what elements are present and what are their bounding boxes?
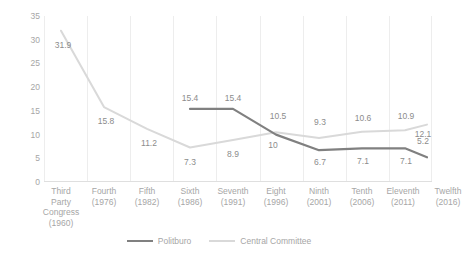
x-axis-label: Seventh (1991) bbox=[209, 186, 257, 207]
data-label-politburo: 7.1 bbox=[400, 157, 412, 166]
x-axis-label-line: (1996) bbox=[264, 197, 289, 207]
x-axis-label: Fifth (1982) bbox=[123, 186, 171, 207]
y-axis-tick: 25 bbox=[18, 59, 40, 68]
x-axis-label-line: (2001) bbox=[307, 197, 332, 207]
data-label-cc: 10.5 bbox=[270, 112, 287, 121]
x-axis-label-line: Third bbox=[51, 186, 70, 196]
legend-swatch-politburo bbox=[127, 240, 153, 242]
legend-label-politburo: Politburo bbox=[158, 236, 192, 246]
data-label-cc: 9.3 bbox=[314, 118, 326, 127]
y-axis-tick: 30 bbox=[18, 35, 40, 44]
data-label-cc: 11.2 bbox=[141, 139, 157, 148]
x-axis-label-line: (1960) bbox=[49, 218, 74, 228]
x-axis-label-line: Congress bbox=[43, 207, 79, 217]
x-axis-label-line: Tenth bbox=[352, 186, 373, 196]
data-label-politburo: 6.7 bbox=[314, 158, 326, 167]
y-axis-tick: 35 bbox=[18, 12, 40, 21]
x-axis-label: Sixth (1986) bbox=[166, 186, 214, 207]
x-axis-label: Eleventh (2011) bbox=[377, 186, 429, 207]
x-axis-label-line: Ninth bbox=[309, 186, 329, 196]
x-axis-label: Fourth (1976) bbox=[80, 186, 128, 207]
data-label-cc: 10.9 bbox=[398, 112, 415, 121]
x-axis-label-line: (1991) bbox=[221, 197, 246, 207]
x-axis-labels: Third Party Congress (1960) Fourth (1976… bbox=[44, 186, 432, 242]
data-label-cc: 8.9 bbox=[227, 150, 239, 159]
series-line-politburo bbox=[190, 109, 427, 157]
x-axis-label-line: Eleventh bbox=[386, 186, 419, 196]
x-axis-label: Twelfth (2016) bbox=[423, 186, 466, 207]
y-axis: 35 30 25 20 15 10 5 0 bbox=[16, 16, 40, 182]
data-label-cc: 15.8 bbox=[98, 117, 115, 126]
legend-entry-central-committee[interactable]: Central Committee bbox=[209, 236, 311, 246]
chart-legend: Politburo Central Committee bbox=[0, 236, 438, 246]
x-axis-label-line: Seventh bbox=[217, 186, 248, 196]
data-label-politburo: 10 bbox=[268, 141, 277, 150]
data-label-politburo: 15.4 bbox=[182, 94, 199, 103]
x-axis-label-line: Fourth bbox=[92, 186, 117, 196]
data-label-cc: 31.9 bbox=[55, 41, 72, 50]
x-axis-label-line: Twelfth bbox=[435, 186, 462, 196]
legend-label-central-committee: Central Committee bbox=[240, 236, 311, 246]
data-label-politburo: 7.1 bbox=[357, 157, 369, 166]
x-axis-label-line: (1982) bbox=[135, 197, 160, 207]
data-label-politburo: 5.2 bbox=[417, 137, 429, 146]
x-axis-label-line: Sixth bbox=[181, 186, 200, 196]
plot-area: 31.9 15.8 11.2 7.3 8.9 10.5 9.3 10.6 10.… bbox=[44, 16, 432, 182]
x-axis-label-line: (2006) bbox=[350, 197, 375, 207]
data-label-cc: 10.6 bbox=[355, 114, 372, 123]
x-axis-label: Eight (1996) bbox=[252, 186, 300, 207]
x-axis-label-line: Fifth bbox=[139, 186, 156, 196]
x-axis-label-line: (1986) bbox=[178, 197, 203, 207]
x-axis-label-line: (1976) bbox=[92, 197, 117, 207]
x-axis-label-line: Party bbox=[51, 197, 71, 207]
data-label-politburo: 15.4 bbox=[225, 94, 242, 103]
y-axis-tick: 10 bbox=[18, 130, 40, 139]
y-axis-tick: 20 bbox=[18, 83, 40, 92]
series-line-central-committee bbox=[61, 31, 427, 148]
legend-entry-politburo[interactable]: Politburo bbox=[127, 236, 192, 246]
legend-swatch-central-committee bbox=[209, 240, 235, 242]
x-axis-label-line: (2016) bbox=[436, 197, 461, 207]
y-axis-tick: 15 bbox=[18, 106, 40, 115]
x-axis-label-line: (2011) bbox=[391, 197, 415, 207]
data-label-cc: 7.3 bbox=[184, 158, 196, 167]
y-axis-tick: 5 bbox=[18, 154, 40, 163]
x-axis-label-line: Eight bbox=[266, 186, 285, 196]
x-axis-label: Ninth (2001) bbox=[295, 186, 343, 207]
